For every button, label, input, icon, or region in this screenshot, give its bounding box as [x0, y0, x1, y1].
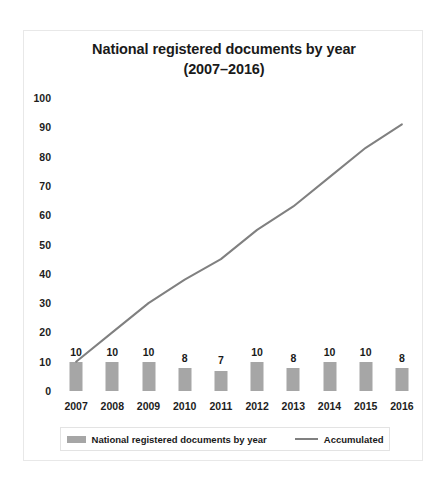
- x-axis-tick-label: 2012: [245, 400, 268, 412]
- x-axis-tick-label: 2013: [282, 400, 305, 412]
- y-axis-tick-label: 100: [33, 92, 51, 104]
- chart-title: National registered documents by year (2…: [24, 40, 424, 79]
- x-axis-tick-label: 2011: [210, 400, 233, 412]
- bar-swatch-icon: [67, 436, 86, 443]
- bar-value-label: 7: [218, 354, 224, 366]
- x-axis-tick-label: 2016: [390, 400, 413, 412]
- chart-title-line1: National registered documents by year: [92, 41, 356, 57]
- legend-label-line-series: Accumulated: [324, 434, 384, 445]
- y-axis-tick-label: 20: [39, 326, 51, 338]
- legend-item-line-series: Accumulated: [295, 434, 384, 445]
- bar-value-label: 10: [251, 346, 263, 358]
- x-axis-tick-label: 2009: [137, 400, 160, 412]
- bar-value-label: 10: [324, 346, 336, 358]
- x-axis-tick-label: 2007: [64, 400, 87, 412]
- x-axis-tick-label: 2015: [354, 400, 377, 412]
- bar-value-label: 10: [143, 346, 155, 358]
- bar-value-label: 8: [290, 352, 296, 364]
- y-axis-tick-label: 0: [45, 385, 51, 397]
- x-axis-tick-label: 2014: [318, 400, 341, 412]
- x-axis-tick-label: 2008: [101, 400, 124, 412]
- chart-container: National registered documents by year (2…: [23, 30, 423, 461]
- legend-item-bar-series: National registered documents by year: [67, 434, 267, 445]
- y-axis-tick-label: 70: [39, 180, 51, 192]
- chart-legend: National registered documents by year Ac…: [60, 427, 390, 451]
- y-axis-tick-label: 30: [39, 297, 51, 309]
- y-axis-tick-label: 90: [39, 121, 51, 133]
- bar-value-label: 10: [70, 346, 82, 358]
- y-axis-tick-label: 50: [39, 239, 51, 251]
- y-axis-tick-label: 60: [39, 209, 51, 221]
- legend-label-bar-series: National registered documents by year: [92, 434, 267, 445]
- bar-value-label: 8: [399, 352, 405, 364]
- y-axis-tick-label: 40: [39, 268, 51, 280]
- bar-value-label: 8: [182, 352, 188, 364]
- accumulated-polyline: [76, 124, 402, 361]
- plot-area: 0102030405060708090100 20072008200920102…: [58, 98, 420, 391]
- bar-value-label: 10: [360, 346, 372, 358]
- y-axis-tick-label: 10: [39, 356, 51, 368]
- x-axis-tick-label: 2010: [173, 400, 196, 412]
- bar-value-label: 10: [106, 346, 118, 358]
- y-axis-tick-label: 80: [39, 151, 51, 163]
- line-swatch-icon: [295, 438, 318, 440]
- chart-title-line2: (2007–2016): [24, 60, 424, 80]
